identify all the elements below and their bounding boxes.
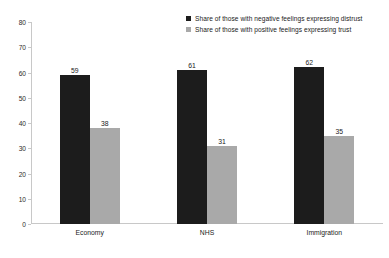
- y-axis-tick-label: 40: [19, 120, 26, 127]
- bar-negative: 61: [177, 70, 207, 224]
- bar-group: 5938Economy: [60, 22, 120, 224]
- legend-swatch-negative-icon: [186, 16, 191, 21]
- bar-negative: 62: [294, 67, 324, 224]
- y-axis-tick-label: 80: [19, 19, 26, 26]
- bar-group: 6235Immigration: [294, 22, 354, 224]
- y-axis-tick-label: 10: [19, 195, 26, 202]
- y-axis-tick-label: 50: [19, 94, 26, 101]
- x-axis-category-label: NHS: [200, 229, 214, 236]
- bar-value-label: 38: [101, 120, 109, 127]
- bar-value-label: 62: [306, 59, 314, 66]
- x-axis-category-label: Economy: [75, 229, 103, 236]
- bar-positive: 31: [207, 146, 237, 224]
- y-axis-tick-label: 0: [22, 221, 26, 228]
- bar-group: 6131NHS: [177, 22, 237, 224]
- y-axis-tick-label: 70: [19, 44, 26, 51]
- bar-positive: 35: [324, 136, 354, 224]
- bar-value-label: 61: [188, 62, 196, 69]
- bar-negative: 59: [60, 75, 90, 224]
- bar-value-label: 31: [218, 138, 226, 145]
- y-axis-tick-label: 60: [19, 69, 26, 76]
- bar-value-label: 59: [71, 67, 79, 74]
- y-axis-tick-label: 20: [19, 170, 26, 177]
- plot-area: 01020304050607080 5938Economy6131NHS6235…: [31, 22, 383, 224]
- bar-positive: 38: [90, 128, 120, 224]
- y-axis-tick-label: 30: [19, 145, 26, 152]
- x-axis-category-label: Immigration: [307, 229, 343, 236]
- bar-value-label: 35: [336, 128, 344, 135]
- y-axis-tick: [28, 224, 31, 225]
- bar-chart: Share of those with negative feelings ex…: [0, 0, 389, 258]
- bar-groups: 5938Economy6131NHS6235Immigration: [31, 22, 383, 224]
